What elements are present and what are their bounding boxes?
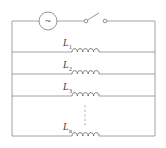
inductor-label: L	[62, 121, 69, 132]
inductor-branch: Ln	[12, 121, 155, 136]
inductor-branch: L3	[12, 81, 155, 96]
switch-blade	[88, 13, 100, 20]
inductor-coil	[72, 93, 99, 96]
switch-terminal-left	[84, 19, 88, 23]
source-symbol: ~	[45, 17, 52, 26]
inductor-label: L	[62, 81, 69, 92]
switch	[84, 13, 107, 23]
inductor-coil	[72, 71, 99, 74]
circuit-diagram: ~ L1L2L3Ln	[0, 0, 166, 148]
inductor-label: L	[62, 37, 69, 48]
inductor-branch: L1	[12, 37, 155, 52]
switch-terminal-right	[103, 19, 107, 23]
inductor-subscript: 2	[69, 66, 72, 72]
inductor-coil	[72, 133, 99, 136]
ac-source: ~	[39, 12, 57, 30]
inductor-subscript: n	[69, 128, 72, 134]
inductor-coil	[72, 49, 99, 52]
inductor-subscript: 1	[69, 44, 72, 50]
inductor-subscript: 3	[69, 88, 72, 94]
inductor-label: L	[62, 59, 69, 70]
inductor-branch: L2	[12, 59, 155, 74]
